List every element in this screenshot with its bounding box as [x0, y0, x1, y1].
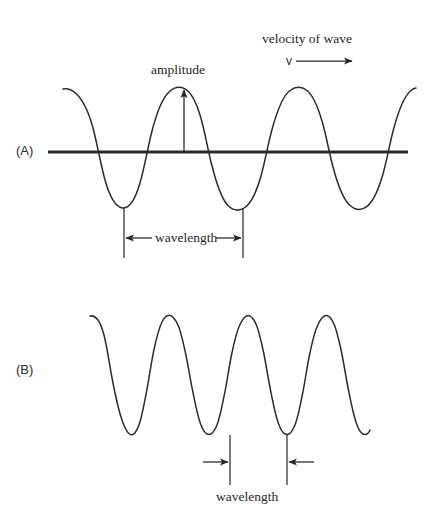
panel-a-tag: (A) [16, 144, 33, 157]
wave-a-curve [63, 87, 416, 210]
panel-a-wavelength-label: wavelength [155, 231, 217, 245]
panel-b-tag: (B) [16, 363, 33, 376]
velocity-symbol-label: v [286, 55, 292, 67]
velocity-of-wave-label: velocity of wave [262, 32, 352, 46]
panel-b-group [90, 315, 370, 485]
wave-diagram-figure [0, 0, 426, 526]
wave-b-curve [90, 315, 370, 434]
panel-b-wavelength-label: wavelength [216, 490, 278, 504]
amplitude-label: amplitude [151, 63, 205, 77]
panel-a-group [48, 61, 416, 258]
